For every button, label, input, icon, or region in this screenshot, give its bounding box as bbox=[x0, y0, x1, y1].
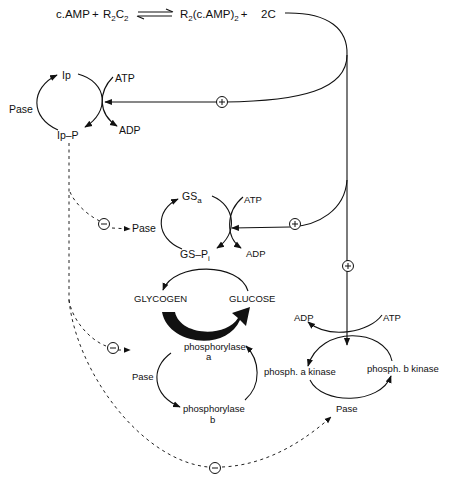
inhibition-sign bbox=[99, 219, 110, 230]
inhibition-line-phosphorylase-pase bbox=[69, 300, 106, 346]
r2-camp2-label: R2(c.AMP)2+ bbox=[180, 8, 248, 23]
camp-label: c.AMP bbox=[56, 8, 90, 20]
kinase-adp-label: ADP bbox=[294, 312, 314, 323]
2c-label: 2C bbox=[261, 8, 276, 20]
camp-equation: c.AMP + R2C2 R2(c.AMP)2+ 2C bbox=[56, 8, 276, 23]
phosphorylase-kinase-cycle: ADP ATP phosph. a kinase phosph. b kinas… bbox=[264, 312, 439, 414]
phosphorylase-b-label: phosphorylase bbox=[183, 403, 245, 414]
phosphorylase-pase-label: Pase bbox=[132, 371, 154, 382]
glycogenolysis-thick-arrow bbox=[162, 307, 250, 341]
phosphorylase-cycle: phosphorylase a phosphorylase b Pase bbox=[132, 341, 257, 425]
kinase-atp-label: ATP bbox=[383, 312, 401, 323]
phosph-a-kinase-label: phosph. a kinase bbox=[264, 366, 336, 377]
gs-pase-label: Pase bbox=[132, 222, 156, 234]
r2c2-label: R2C2 bbox=[103, 8, 129, 23]
phosphorylase-b-letter: b bbox=[210, 414, 215, 425]
inhibition-sign bbox=[210, 463, 221, 474]
glycogen-label: GLYCOGEN bbox=[134, 293, 187, 304]
ip-label: Ip bbox=[62, 69, 71, 81]
glycogen-metabolism-diagram: c.AMP + R2C2 R2(c.AMP)2+ 2C bbox=[0, 0, 449, 482]
phosphorylase-a-letter: a bbox=[206, 351, 212, 362]
inhibitor-cycle: Ip Ip–P Pase ATP ADP bbox=[9, 69, 141, 141]
gs-atp-label: ATP bbox=[244, 194, 262, 205]
inhibition-line-kinase-pase bbox=[69, 300, 208, 467]
activation-sign bbox=[217, 97, 228, 108]
activation-sign bbox=[343, 261, 354, 272]
glucose-label: GLUCOSE bbox=[229, 293, 275, 304]
adp-label: ADP bbox=[119, 124, 141, 136]
pase-label: Pase bbox=[9, 103, 33, 115]
atp-label: ATP bbox=[115, 72, 135, 84]
ip-p-label: Ip–P bbox=[57, 129, 79, 141]
activation-sign bbox=[290, 219, 301, 230]
catalytic-subunit-line bbox=[285, 13, 347, 345]
gs-pi-label: GS–Pi bbox=[180, 248, 210, 263]
equilibrium-arrows-icon bbox=[137, 9, 173, 19]
gsa-label: GSa bbox=[182, 190, 202, 205]
inhibition-sign bbox=[108, 343, 119, 354]
inhibition-line-gs-pase bbox=[70, 192, 102, 222]
glycogen-glucose-conversion: GLYCOGEN GLUCOSE bbox=[134, 269, 275, 341]
plus-sign: + bbox=[92, 8, 99, 20]
glycogen-synthase-cycle: GSa GS–Pi Pase ATP ADP bbox=[132, 190, 266, 263]
phosph-b-kinase-label: phosph. b kinase bbox=[367, 363, 439, 374]
phosphorylase-a-label: phosphorylase bbox=[184, 341, 246, 352]
gs-adp-label: ADP bbox=[246, 248, 266, 259]
activation-line-inhibitor bbox=[105, 55, 347, 102]
kinase-pase-label: Pase bbox=[336, 403, 358, 414]
